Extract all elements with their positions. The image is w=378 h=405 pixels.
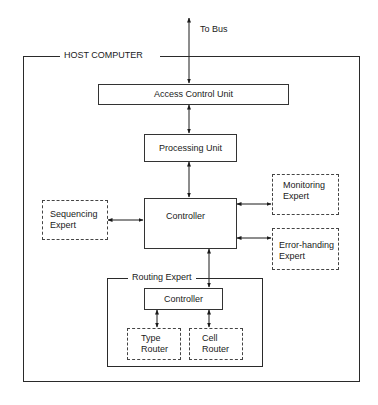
type-router-label: Type Router	[128, 333, 168, 355]
host-computer-label: HOST COMPUTER	[60, 50, 160, 61]
cell-router-label: Cell Router	[190, 333, 229, 355]
processing-unit-label: Processing Unit	[159, 143, 222, 154]
error-handling-expert-label: Error-handing Expert	[273, 240, 334, 262]
cell-router: Cell Router	[189, 328, 243, 360]
sequencing-expert: Sequencing Expert	[42, 200, 108, 240]
routing-controller: Controller	[144, 288, 223, 310]
access-control-unit: Access Control Unit	[98, 84, 289, 105]
controller-label: Controller	[166, 211, 205, 222]
routing-controller-label: Controller	[164, 294, 203, 305]
monitoring-expert: Monitoring Expert	[272, 174, 339, 215]
monitoring-expert-label: Monitoring Expert	[273, 180, 325, 202]
to-bus-label: To Bus	[200, 24, 228, 34]
access-control-unit-label: Access Control Unit	[154, 89, 233, 100]
error-handling-expert: Error-handing Expert	[272, 228, 339, 270]
sequencing-expert-label: Sequencing Expert	[43, 209, 98, 231]
routing-expert-label: Routing Expert	[128, 272, 196, 283]
controller: Controller	[144, 198, 237, 249]
type-router: Type Router	[127, 328, 181, 360]
processing-unit: Processing Unit	[144, 134, 237, 162]
